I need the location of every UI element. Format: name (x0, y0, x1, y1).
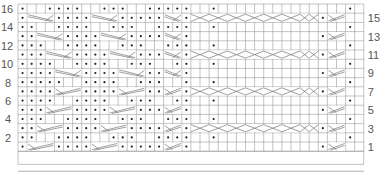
purl-dot (322, 72, 324, 74)
purl-dot (76, 35, 78, 37)
purl-dot (322, 35, 324, 37)
purl-dot (67, 136, 69, 138)
purl-dot (349, 100, 351, 102)
purl-dot (85, 63, 87, 65)
purl-dot (349, 26, 351, 28)
row-label-10: 10 (1, 58, 13, 70)
purl-dot (158, 17, 160, 19)
purl-dot (149, 81, 151, 83)
purl-dot (49, 100, 51, 102)
purl-dot (76, 63, 78, 65)
purl-dot (322, 127, 324, 129)
purl-dot (158, 90, 160, 92)
purl-dot (158, 127, 160, 129)
purl-dot (349, 118, 351, 120)
purl-dot (85, 26, 87, 28)
purl-dot (94, 44, 96, 46)
row-label-11: 11 (368, 49, 379, 61)
purl-dot (85, 44, 87, 46)
purl-dot (158, 26, 160, 28)
purl-dot (58, 8, 60, 10)
purl-dot (76, 109, 78, 111)
purl-dot (122, 44, 124, 46)
purl-dot (140, 54, 142, 56)
purl-dot (21, 35, 23, 37)
purl-dot (349, 44, 351, 46)
purl-dot (158, 35, 160, 37)
purl-dot (94, 90, 96, 92)
purl-dot (21, 136, 23, 138)
purl-dot (140, 127, 142, 129)
purl-dot (85, 17, 87, 19)
row-label-16: 16 (1, 3, 13, 15)
row-label-4: 4 (5, 113, 11, 125)
purl-dot (131, 63, 133, 65)
purl-dot (122, 8, 124, 10)
purl-dot (122, 146, 124, 148)
purl-dot (185, 54, 187, 56)
purl-dot (176, 100, 178, 102)
purl-dot (94, 118, 96, 120)
purl-dot (112, 26, 114, 28)
purl-dot (185, 109, 187, 111)
purl-dot (21, 8, 23, 10)
purl-dot (21, 81, 23, 83)
purl-dot (103, 8, 105, 10)
purl-dot (40, 109, 42, 111)
purl-dot (21, 26, 23, 28)
purl-dot (58, 146, 60, 148)
purl-dot (21, 146, 23, 148)
purl-dot (85, 146, 87, 148)
purl-dot (94, 72, 96, 74)
purl-dot (131, 100, 133, 102)
purl-dot (85, 54, 87, 56)
purl-dot (58, 17, 60, 19)
purl-dot (176, 26, 178, 28)
row-label-2: 2 (5, 132, 11, 144)
purl-dot (167, 26, 169, 28)
purl-dot (40, 72, 42, 74)
purl-dot (322, 146, 324, 148)
purl-dot (122, 118, 124, 120)
row-label-1: 1 (368, 141, 374, 153)
purl-dot (76, 54, 78, 56)
purl-dot (76, 146, 78, 148)
purl-dot (213, 63, 215, 65)
purl-dot (140, 17, 142, 19)
purl-dot (349, 81, 351, 83)
purl-dot (85, 72, 87, 74)
purl-dot (21, 127, 23, 129)
purl-dot (103, 100, 105, 102)
purl-dot (21, 100, 23, 102)
purl-dot (67, 17, 69, 19)
purl-dot (167, 44, 169, 46)
purl-dot (67, 118, 69, 120)
purl-dot (213, 44, 215, 46)
purl-dot (322, 90, 324, 92)
purl-dot (40, 100, 42, 102)
row-label-8: 8 (5, 77, 11, 89)
knitting-chart (0, 0, 380, 180)
purl-dot (40, 63, 42, 65)
purl-dot (185, 26, 187, 28)
row-label-6: 6 (5, 95, 11, 107)
purl-dot (349, 8, 351, 10)
purl-dot (167, 118, 169, 120)
purl-dot (94, 54, 96, 56)
purl-dot (67, 127, 69, 129)
purl-dot (67, 8, 69, 10)
purl-dot (76, 100, 78, 102)
purl-dot (31, 90, 33, 92)
purl-dot (322, 17, 324, 19)
purl-dot (31, 72, 33, 74)
purl-dot (185, 136, 187, 138)
purl-dot (185, 17, 187, 19)
purl-dot (149, 127, 151, 129)
purl-dot (158, 109, 160, 111)
purl-dot (58, 136, 60, 138)
purl-dot (31, 35, 33, 37)
purl-dot (103, 81, 105, 83)
purl-dot (131, 118, 133, 120)
purl-dot (103, 54, 105, 56)
purl-dot (31, 44, 33, 46)
